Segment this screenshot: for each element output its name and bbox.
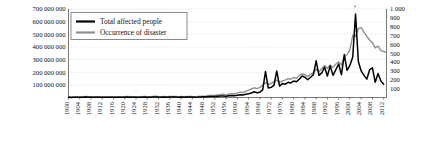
x-axis-tick-label: 1940 xyxy=(175,101,182,115)
chart-legend: Total affected people Occurrence of disa… xyxy=(71,13,187,40)
y-axis-left-tick-label: 600 000 000 xyxy=(33,18,67,25)
x-axis-tick-label: 1996 xyxy=(333,101,340,115)
x-axis-tick-label: 1932 xyxy=(153,102,160,115)
x-axis-tick-label: 1972 xyxy=(265,102,272,115)
legend-item-total-affected-people: Total affected people xyxy=(100,17,163,26)
x-axis-tick-label: 1912 xyxy=(96,102,103,115)
x-axis-tick-label: 1948 xyxy=(198,101,205,115)
x-axis-tick-label: 1968 xyxy=(254,101,261,115)
y-axis-left-tick-label: 300 000 000 xyxy=(33,56,67,63)
y-axis-right-ticks: 1 000900800700600500400300200100 xyxy=(390,5,406,92)
y-axis-right-tick-label: 900 xyxy=(390,14,401,21)
y-axis-right-tick-label: 300 xyxy=(390,67,401,74)
y-axis-left-tick-label: 700 000 000 xyxy=(33,5,67,12)
x-axis-tick-label: 1908 xyxy=(85,101,92,115)
x-axis-tick-label: 1904 xyxy=(74,101,81,115)
stray-speck-mark xyxy=(354,6,356,8)
y-axis-right-tick-label: 500 xyxy=(390,50,401,57)
x-axis-tick-label: 2012 xyxy=(378,102,385,115)
x-axis-tick-label: 1984 xyxy=(299,101,306,115)
y-axis-left-tick-label: 400 000 000 xyxy=(33,43,67,50)
y-axis-right-tick-label: 200 xyxy=(390,76,401,83)
x-axis-tick-label: 1992 xyxy=(321,102,328,115)
legend-item-occurrence-of-disaster: Occurrence of disaster xyxy=(100,28,167,37)
x-axis-tick-label: 1944 xyxy=(186,101,193,115)
y-axis-left-ticks: 700 000 000600 000 000500 000 000400 000… xyxy=(33,5,67,88)
x-axis-tick-label: 1916 xyxy=(108,101,115,115)
x-axis-tick-label: 1920 xyxy=(119,101,126,115)
x-axis-tick-label: 2008 xyxy=(366,101,373,115)
x-axis-tick-label: 1936 xyxy=(164,101,171,115)
y-axis-right-tick-label: 600 xyxy=(390,41,401,48)
x-axis-tick-label: 1980 xyxy=(288,101,295,115)
y-axis-right-tick-label: 700 xyxy=(390,32,401,39)
x-axis-ticks: 1900190419081912191619201924192819321936… xyxy=(63,98,385,116)
x-axis-tick-label: 1964 xyxy=(243,101,250,115)
x-axis-tick-label: 2000 xyxy=(344,101,351,115)
x-axis-tick-label: 1956 xyxy=(220,101,227,115)
y-axis-left-tick-label: 100 000 000 xyxy=(33,81,67,88)
x-axis-tick-label: 1988 xyxy=(310,101,317,115)
x-axis-tick-label: 1960 xyxy=(231,101,238,115)
x-axis-tick-label: 1976 xyxy=(276,101,283,115)
y-axis-right-tick-label: 400 xyxy=(390,58,401,65)
x-axis-tick-label: 1900 xyxy=(63,101,70,115)
y-axis-right-tick-label: 1 000 xyxy=(390,5,406,12)
chart-figure: 700 000 000600 000 000500 000 000400 000… xyxy=(0,0,433,146)
x-axis-tick-label: 1928 xyxy=(141,101,148,115)
y-axis-right-tick-label: 100 xyxy=(390,85,401,92)
x-axis-tick-label: 1924 xyxy=(130,101,137,115)
y-axis-left-tick-label: 500 000 000 xyxy=(33,31,67,38)
x-axis-tick-label: 1952 xyxy=(209,102,216,115)
x-axis-tick-label: 2004 xyxy=(355,101,362,115)
y-axis-right-tick-label: 800 xyxy=(390,23,401,30)
disaster-trend-line-chart: 700 000 000600 000 000500 000 000400 000… xyxy=(0,0,433,146)
y-axis-left-tick-label: 200 000 000 xyxy=(33,69,67,76)
